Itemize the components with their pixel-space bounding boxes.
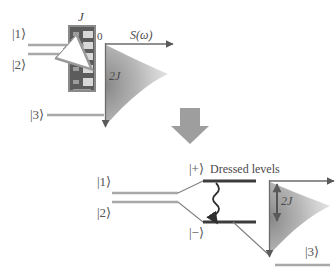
dressing-connector-lower bbox=[178, 202, 203, 222]
spectrum-lobe-upper bbox=[106, 45, 168, 125]
label-state-1-upper: |1⟩ bbox=[12, 27, 26, 40]
label-spectrum-axis-upper: S(ω) bbox=[130, 29, 152, 41]
wavy-transition-arrow bbox=[213, 183, 219, 220]
label-splitting-lower: 2J bbox=[281, 195, 292, 207]
label-state-1-lower: |1⟩ bbox=[97, 175, 111, 188]
diagram-vector-layer bbox=[0, 0, 336, 276]
label-dressed-state-plus: |+⟩ bbox=[189, 162, 204, 175]
label-state-2-lower: |2⟩ bbox=[97, 206, 111, 219]
label-state-3-lower: |3⟩ bbox=[305, 245, 319, 258]
label-state-3-upper: |3⟩ bbox=[30, 108, 44, 121]
coupling-arrow bbox=[70, 50, 88, 66]
label-dressed-state-minus: |−⟩ bbox=[189, 226, 204, 239]
label-coupling-J: J bbox=[78, 10, 84, 23]
label-state-2-upper: |2⟩ bbox=[12, 58, 26, 71]
decay-connector-to-ground bbox=[233, 222, 269, 255]
label-splitting-upper: 2J bbox=[109, 70, 120, 82]
label-dressed-levels-caption: Dressed levels bbox=[210, 163, 280, 175]
physics-level-diagram-figure: |1⟩ |2⟩ |3⟩ J 0 S(ω) 2J |1⟩ |2⟩ |+⟩ Dres… bbox=[0, 0, 336, 276]
dressing-connector-upper bbox=[178, 181, 203, 193]
spectrum-lobe-lower bbox=[270, 182, 330, 254]
downward-block-arrow bbox=[171, 108, 209, 144]
label-axis-origin-upper: 0 bbox=[97, 31, 103, 42]
